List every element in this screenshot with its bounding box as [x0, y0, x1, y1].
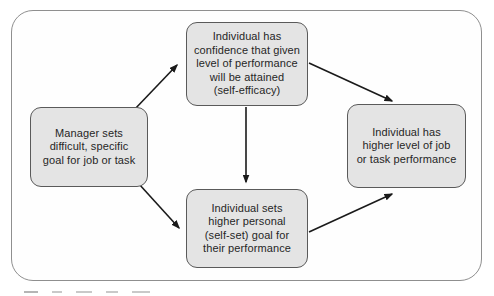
node-performance: Individual has higher level of job or ta…: [347, 104, 466, 188]
figure-canvas: Individual has confidence that given lev…: [0, 0, 494, 296]
cropped-caption-fragment: [24, 291, 274, 294]
node-self-set-goal: Individual sets higher personal (self-se…: [186, 189, 308, 268]
node-manager-goal: Manager sets difficult, specific goal fo…: [30, 107, 148, 187]
node-self-efficacy: Individual has confidence that given lev…: [186, 22, 308, 106]
